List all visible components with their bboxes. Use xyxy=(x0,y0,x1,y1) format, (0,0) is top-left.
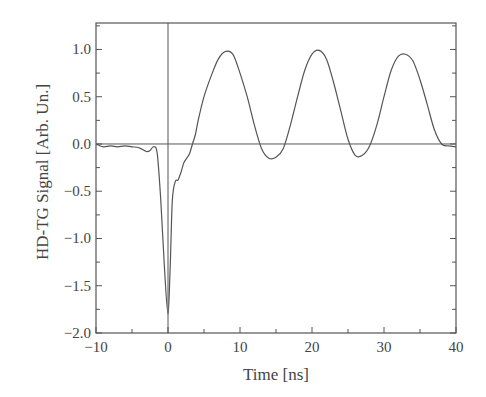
x-tick-label: 30 xyxy=(377,339,392,355)
reference-lines xyxy=(96,23,456,333)
y-tick-label: 1.0 xyxy=(72,41,91,57)
x-tick-label: 20 xyxy=(305,339,320,355)
data-series-line xyxy=(96,50,456,314)
y-tick-label: 0.5 xyxy=(72,89,91,105)
x-tick-label: 0 xyxy=(164,339,172,355)
x-tick-label: 10 xyxy=(233,339,248,355)
x-tick-label: 40 xyxy=(449,339,464,355)
y-tick-label: −0.5 xyxy=(64,183,91,199)
y-axis-title: HD-TG Signal [Arb. Un.] xyxy=(33,84,52,260)
x-axis-title: Time [ns] xyxy=(243,365,309,384)
y-tick-label: −1.0 xyxy=(64,230,91,246)
chart: −10010203040 1.00.50.0−0.5−1.0−1.5−2.0 T… xyxy=(0,0,486,397)
x-tick-labels: −10010203040 xyxy=(84,339,463,355)
plot-frame xyxy=(96,23,456,333)
x-tick-label: −10 xyxy=(84,339,107,355)
y-tick-label: −2.0 xyxy=(64,325,91,341)
plot-border xyxy=(96,23,456,333)
y-tick-labels: 1.00.50.0−0.5−1.0−1.5−2.0 xyxy=(64,41,91,341)
axis-ticks xyxy=(96,26,456,333)
y-tick-label: 0.0 xyxy=(72,136,91,152)
y-tick-label: −1.5 xyxy=(64,278,91,294)
